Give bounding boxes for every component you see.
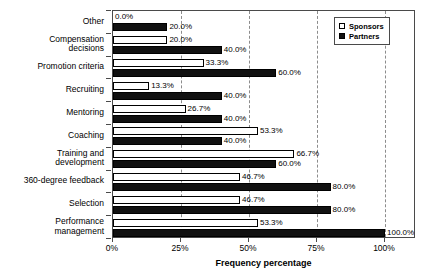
bar-sponsors bbox=[113, 173, 240, 181]
bar-row: 53.3%40.0% bbox=[113, 125, 414, 148]
value-tick bbox=[180, 238, 181, 242]
legend-item-sponsors: Sponsors bbox=[339, 21, 384, 31]
category-tick bbox=[106, 192, 111, 193]
bar-row: 66.7%60.0% bbox=[113, 148, 414, 171]
bar-row: 26.7%40.0% bbox=[113, 102, 414, 125]
bar-value-label: 60.0% bbox=[278, 160, 301, 168]
bar-value-label: 80.0% bbox=[333, 183, 356, 191]
category-label: Mentoring bbox=[66, 108, 104, 118]
value-tick bbox=[248, 238, 249, 242]
category-tick bbox=[106, 33, 111, 34]
x-axis-title: Frequency percentage bbox=[112, 258, 415, 268]
value-axis: 0%25%50%75%100% bbox=[112, 238, 415, 254]
category-tick bbox=[106, 10, 111, 11]
category-label: Selection bbox=[69, 199, 104, 209]
bar-value-label: 33.3% bbox=[206, 59, 229, 67]
category-tick bbox=[106, 124, 111, 125]
category-label: 360-degree feedback bbox=[24, 176, 104, 186]
bar-row: 33.3%60.0% bbox=[113, 57, 414, 80]
bar-row: 46.7%80.0% bbox=[113, 171, 414, 194]
bar-value-label: 66.7% bbox=[296, 150, 319, 158]
bar-sponsors bbox=[113, 219, 258, 227]
value-tick-label: 75% bbox=[307, 243, 324, 253]
bar-partners bbox=[113, 115, 222, 123]
bar-value-label: 26.7% bbox=[188, 105, 211, 113]
bar-sponsors bbox=[113, 36, 167, 44]
bar-partners bbox=[113, 69, 276, 77]
bar-sponsors bbox=[113, 105, 186, 113]
bar-row: 53.3%100.0% bbox=[113, 216, 414, 239]
hollow-square-icon bbox=[339, 23, 345, 29]
category-tick bbox=[106, 56, 111, 57]
frequency-percentage-bar-chart: OtherCompensation decisionsPromotion cri… bbox=[0, 0, 428, 280]
bar-value-label: 46.7% bbox=[242, 173, 265, 181]
bar-partners bbox=[113, 183, 331, 191]
bar-partners bbox=[113, 23, 167, 31]
filled-square-icon bbox=[339, 33, 345, 39]
value-tick bbox=[316, 238, 317, 242]
bar-value-label: 53.3% bbox=[260, 219, 283, 227]
bar-value-label: 100.0% bbox=[387, 229, 414, 237]
bar-value-label: 60.0% bbox=[278, 69, 301, 77]
bar-value-label: 40.0% bbox=[224, 46, 247, 54]
bar-sponsors bbox=[113, 59, 204, 67]
bar-sponsors bbox=[113, 127, 258, 135]
bar-value-label: 46.7% bbox=[242, 196, 265, 204]
value-tick bbox=[384, 238, 385, 242]
bar-sponsors bbox=[113, 150, 294, 158]
bar-partners bbox=[113, 137, 222, 145]
value-tick-label: 25% bbox=[171, 243, 188, 253]
legend-item-partners: Partners bbox=[339, 31, 384, 41]
legend-label-sponsors: Sponsors bbox=[349, 22, 384, 31]
bar-value-label: 20.0% bbox=[169, 23, 192, 31]
value-tick-label: 50% bbox=[239, 243, 256, 253]
category-label: Other bbox=[83, 17, 104, 27]
chart-legend: Sponsors Partners bbox=[334, 17, 390, 45]
category-label: Performance management bbox=[54, 217, 104, 236]
bar-value-label: 40.0% bbox=[224, 137, 247, 145]
category-tick bbox=[106, 215, 111, 216]
category-label: Coaching bbox=[68, 131, 104, 141]
bar-partners bbox=[113, 229, 385, 237]
bar-row: 46.7%80.0% bbox=[113, 193, 414, 216]
value-tick bbox=[112, 238, 113, 242]
bar-value-label: 13.3% bbox=[151, 82, 174, 90]
value-tick-label: 0% bbox=[106, 243, 118, 253]
category-label: Recruiting bbox=[66, 85, 104, 95]
bar-value-label: 40.0% bbox=[224, 115, 247, 123]
bar-partners bbox=[113, 46, 222, 54]
bar-row: 13.3%40.0% bbox=[113, 79, 414, 102]
bar-sponsors bbox=[113, 196, 240, 204]
bar-partners bbox=[113, 92, 222, 100]
category-label: Training and development bbox=[55, 149, 104, 168]
bar-value-label: 80.0% bbox=[333, 206, 356, 214]
bar-value-label: 53.3% bbox=[260, 127, 283, 135]
category-tick bbox=[106, 147, 111, 148]
category-tick bbox=[106, 170, 111, 171]
bar-partners bbox=[113, 206, 331, 214]
bar-value-label: 20.0% bbox=[169, 36, 192, 44]
bar-sponsors bbox=[113, 82, 149, 90]
category-label: Promotion criteria bbox=[37, 62, 104, 72]
category-axis: OtherCompensation decisionsPromotion cri… bbox=[0, 10, 109, 238]
value-tick-label: 100% bbox=[373, 243, 395, 253]
category-tick bbox=[106, 238, 111, 239]
category-tick bbox=[106, 101, 111, 102]
category-label: Compensation decisions bbox=[49, 35, 104, 54]
bar-partners bbox=[113, 160, 276, 168]
bar-value-label: 40.0% bbox=[224, 92, 247, 100]
bar-value-label: 0.0% bbox=[115, 13, 133, 21]
legend-label-partners: Partners bbox=[349, 32, 379, 41]
category-tick bbox=[106, 78, 111, 79]
